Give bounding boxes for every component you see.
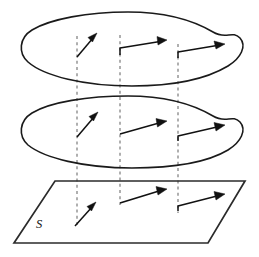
base-plane-vectors bbox=[75, 187, 225, 227]
vector-middle-2 bbox=[120, 119, 167, 135]
middle-blob-vectors bbox=[77, 112, 225, 141]
surface-label-s: S bbox=[36, 217, 43, 231]
middle-blob-outline bbox=[21, 96, 243, 168]
top-blob-outline bbox=[21, 12, 243, 86]
middle-blob-surface bbox=[21, 96, 243, 168]
vector-middle-1 bbox=[77, 112, 98, 137]
vector-field-diagram: S bbox=[0, 0, 259, 257]
vector-base-2 bbox=[120, 187, 167, 204]
base-plane-surface: S bbox=[14, 181, 245, 243]
figure-canvas: S bbox=[0, 0, 259, 257]
vector-base-1 bbox=[75, 202, 96, 226]
base-plane-outline bbox=[14, 181, 245, 243]
top-blob-surface bbox=[21, 12, 243, 86]
vector-top-2 bbox=[120, 37, 167, 56]
top-blob-vectors bbox=[77, 33, 225, 58]
vector-top-1 bbox=[77, 33, 97, 57]
vector-base-3 bbox=[178, 192, 225, 212]
vector-middle-3 bbox=[178, 123, 225, 142]
vector-top-3 bbox=[178, 41, 225, 58]
